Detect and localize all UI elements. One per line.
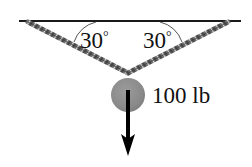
left-angle-label: 30° <box>80 28 109 53</box>
right-degree-symbol: ° <box>166 29 172 44</box>
right-angle-value: 30 <box>143 28 166 53</box>
left-cable-outline <box>28 22 128 73</box>
figure-canvas: 30° 30° 100 lb <box>0 0 252 167</box>
weight-label: 100 lb <box>152 83 210 108</box>
physics-figure: 30° 30° 100 lb <box>0 0 252 167</box>
left-degree-symbol: ° <box>103 29 109 44</box>
left-angle-value: 30 <box>80 28 103 53</box>
right-angle-label: 30° <box>143 28 172 53</box>
